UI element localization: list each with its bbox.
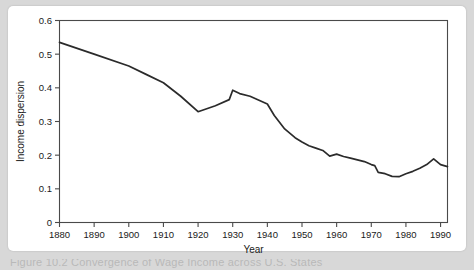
plot-frame xyxy=(60,21,448,223)
income-dispersion-line-chart: 00.10.20.30.40.50.6188018901900191019201… xyxy=(0,0,474,270)
x-tick-label: 1950 xyxy=(291,229,312,240)
x-tick-label: 1960 xyxy=(326,229,347,240)
x-tick-label: 1990 xyxy=(430,229,451,240)
x-tick-label: 1930 xyxy=(222,229,243,240)
x-tick-label: 1890 xyxy=(84,229,105,240)
y-tick-label: 0.6 xyxy=(39,15,52,26)
data-line-income-dispersion xyxy=(60,42,448,176)
x-tick-label: 1900 xyxy=(118,229,139,240)
figure-page: 00.10.20.30.40.50.6188018901900191019201… xyxy=(0,0,474,270)
y-tick-label: 0.4 xyxy=(39,82,52,93)
y-tick-label: 0.3 xyxy=(39,116,52,127)
y-axis-title: Income dispersion xyxy=(15,81,26,162)
y-tick-label: 0.1 xyxy=(39,183,52,194)
y-tick-label: 0.5 xyxy=(39,49,52,60)
y-tick-label: 0.2 xyxy=(39,150,52,161)
x-tick-label: 1910 xyxy=(153,229,174,240)
x-tick-label: 1920 xyxy=(188,229,209,240)
x-tick-label: 1980 xyxy=(395,229,416,240)
x-axis-title: Year xyxy=(243,244,264,255)
x-tick-label: 1880 xyxy=(49,229,70,240)
figure-caption-strip: Figure 10.2 Convergence of Wage Income a… xyxy=(0,259,474,270)
y-tick-label: 0 xyxy=(47,217,52,228)
x-tick-label: 1970 xyxy=(361,229,382,240)
figure-caption: Figure 10.2 Convergence of Wage Income a… xyxy=(10,259,322,268)
x-tick-label: 1940 xyxy=(257,229,278,240)
